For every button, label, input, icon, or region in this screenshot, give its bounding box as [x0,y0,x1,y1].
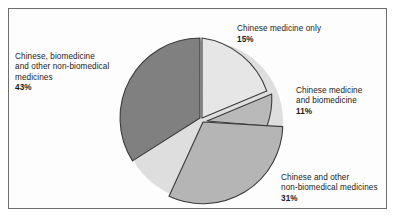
slice-label-text: Chinese medicine only [237,24,321,33]
slice-label-chinese-biomedicine-and-other: Chinese, biomedicine and other non-biome… [15,42,133,104]
slice-label-text: Chinese, biomedicine and other non-biome… [15,52,109,81]
slice-percent-value: 31% [281,194,399,204]
pie-chart-figure: Chinese medicine only 15% Chinese medici… [0,0,401,223]
slice-label-text: Chinese medicine and biomedicine [296,86,362,105]
slice-label-chinese-medicine-only: Chinese medicine only 15% [237,14,362,55]
slice-label-chinese-medicine-and-biomedicine: Chinese medicine and biomedicine 11% [296,76,396,128]
slice-percent-value: 11% [296,107,396,117]
slice-percent-value: 15% [237,35,362,45]
slice-label-text: Chinese and other non-biomedical medicin… [281,173,378,192]
slice-label-chinese-and-other-non-biomedical: Chinese and other non-biomedical medicin… [281,163,399,215]
slice-percent-value: 43% [15,83,133,93]
